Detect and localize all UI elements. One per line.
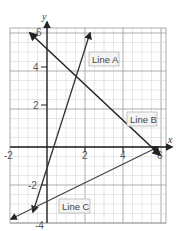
line-c-label-text: Line C (62, 201, 90, 212)
y-tick-label: -2 (28, 180, 37, 191)
y-tick-label: 2 (33, 100, 39, 111)
x-axis-name: x (167, 134, 173, 145)
y-tick-label: -4 (35, 220, 44, 231)
line-b-label-text: Line B (130, 114, 157, 125)
coordinate-graph: x y -2 2 4 6 6 4 2 -2 -4 Line A Line B (0, 0, 179, 231)
line-a-label-text: Line A (92, 54, 119, 65)
x-tick-label: -2 (4, 150, 13, 161)
line-b-label: Line B (127, 112, 157, 126)
line-a-label: Line A (89, 52, 119, 66)
y-tick-label: 6 (36, 27, 42, 38)
y-axis-name: y (41, 11, 47, 22)
y-tick-label: 4 (33, 62, 39, 73)
x-tick-label: 6 (157, 150, 163, 161)
line-c-label: Line C (59, 199, 90, 213)
line-b (30, 33, 160, 155)
